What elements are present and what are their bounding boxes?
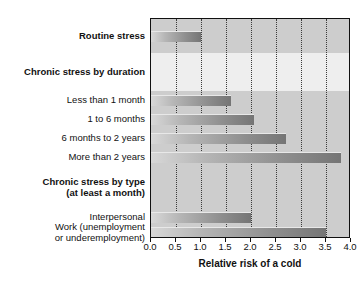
x-tick-label: 2.0 xyxy=(239,241,261,252)
gridline xyxy=(226,19,227,237)
category-label: More than 2 years xyxy=(68,151,145,162)
gridline xyxy=(176,19,177,237)
x-tick-label: 1.0 xyxy=(189,241,211,252)
bar xyxy=(151,95,231,106)
bar xyxy=(151,227,326,238)
bar xyxy=(151,152,341,163)
plot-area xyxy=(150,18,350,238)
bar xyxy=(151,31,201,42)
category-label: 6 months to 2 years xyxy=(62,132,145,143)
x-tick-label: 4.0 xyxy=(339,241,361,252)
x-tick-label: 3.5 xyxy=(314,241,336,252)
gridline xyxy=(301,19,302,237)
category-label: Work (unemployment or underemployment) xyxy=(55,221,145,243)
gridline xyxy=(201,19,202,237)
chart-figure: Routine stressChronic stress by duration… xyxy=(0,0,363,281)
bar xyxy=(151,212,251,223)
category-label: Less than 1 month xyxy=(67,94,145,105)
x-tick-label: 2.5 xyxy=(264,241,286,252)
x-axis-title: Relative risk of a cold xyxy=(150,258,350,269)
gridline xyxy=(276,19,277,237)
gridline xyxy=(251,19,252,237)
category-label: Routine stress xyxy=(79,30,145,41)
x-tick-label: 0.0 xyxy=(139,241,161,252)
x-tick-label: 1.5 xyxy=(214,241,236,252)
gridline xyxy=(326,19,327,237)
category-label: Chronic stress by type (at least a month… xyxy=(43,176,145,198)
category-label: 1 to 6 months xyxy=(87,113,145,124)
x-tick-label: 0.5 xyxy=(164,241,186,252)
category-label: Chronic stress by duration xyxy=(24,66,145,77)
row-band xyxy=(151,53,349,91)
x-axis: 0.00.51.01.52.02.53.03.54.0 xyxy=(150,238,350,254)
row-band xyxy=(151,167,349,209)
x-tick-label: 3.0 xyxy=(289,241,311,252)
bar xyxy=(151,133,286,144)
category-label-column: Routine stressChronic stress by duration… xyxy=(0,18,150,238)
bar xyxy=(151,114,254,125)
